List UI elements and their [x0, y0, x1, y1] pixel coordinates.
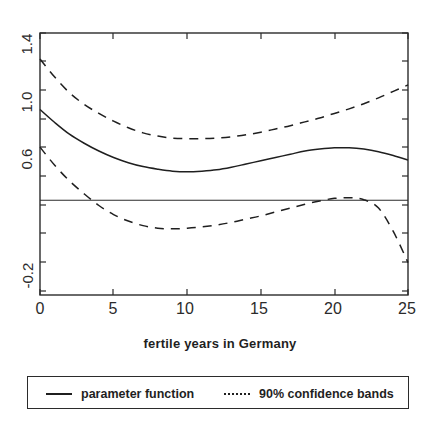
solid-line-icon: [46, 393, 72, 395]
x-axis-ticks-top: [40, 33, 408, 39]
plot-area: [0, 0, 440, 426]
legend-item-confidence-bands: 90% confidence bands: [224, 377, 394, 410]
legend-item-parameter-function: parameter function: [46, 377, 194, 410]
legend-label-parameter-function: parameter function: [81, 387, 194, 401]
x-axis-ticks: [40, 289, 408, 295]
legend: parameter function 90% confidence bands: [27, 376, 409, 409]
legend-label-confidence-bands: 90% confidence bands: [259, 387, 394, 401]
x-axis-title: fertile years in Germany: [0, 336, 440, 351]
curve-parameter-function: [40, 110, 408, 172]
curve-confidence-upper: [40, 59, 408, 139]
dotted-line-icon: [224, 393, 250, 395]
chart-figure: 1.4 1.0 0.6 -0.2 0 5 10 15 20 25: [0, 0, 440, 426]
plot-frame: [40, 33, 408, 295]
curve-confidence-lower: [40, 147, 408, 262]
y-axis-ticks: [40, 33, 46, 291]
